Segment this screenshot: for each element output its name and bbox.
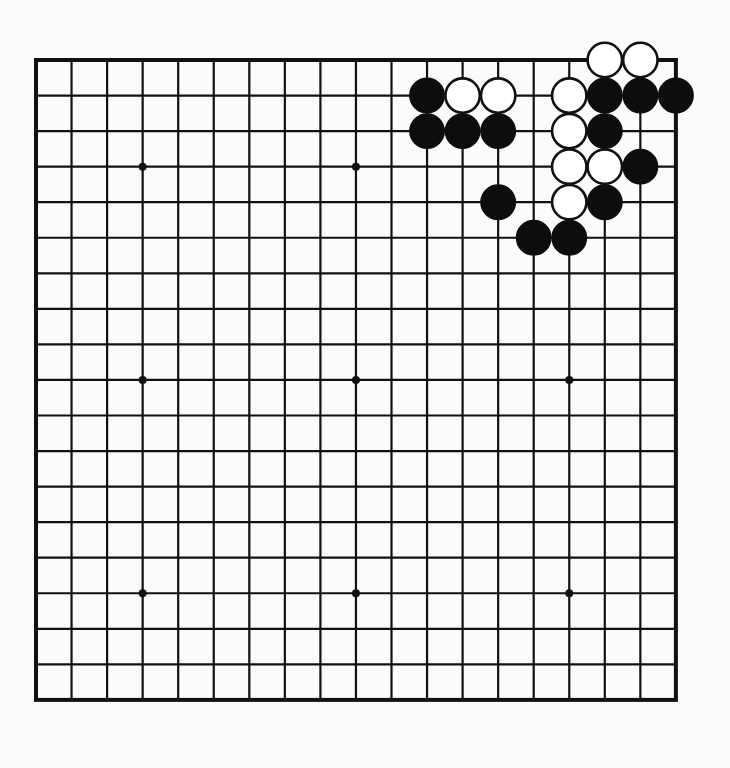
star-point	[139, 589, 147, 597]
white-stone	[445, 78, 479, 112]
black-stone	[588, 114, 622, 148]
black-stone	[481, 185, 515, 219]
black-stone	[623, 78, 657, 112]
white-stone	[552, 149, 586, 183]
black-stone	[517, 221, 551, 255]
stones-layer	[410, 43, 693, 255]
black-stone	[445, 114, 479, 148]
white-stone	[552, 78, 586, 112]
black-stone	[410, 114, 444, 148]
white-stone	[552, 114, 586, 148]
white-stone	[481, 78, 515, 112]
white-stone	[623, 43, 657, 77]
star-point	[139, 163, 147, 171]
star-point	[352, 376, 360, 384]
star-point	[352, 589, 360, 597]
white-stone	[552, 185, 586, 219]
star-point	[565, 589, 573, 597]
black-stone	[588, 78, 622, 112]
white-stone	[588, 149, 622, 183]
star-point	[139, 376, 147, 384]
black-stone	[659, 78, 693, 112]
go-board-diagram	[0, 0, 730, 768]
black-stone	[588, 185, 622, 219]
go-board[interactable]	[0, 0, 730, 768]
black-stone	[410, 78, 444, 112]
white-stone	[588, 43, 622, 77]
black-stone	[481, 114, 515, 148]
star-point	[565, 376, 573, 384]
black-stone	[623, 149, 657, 183]
star-point	[352, 163, 360, 171]
black-stone	[552, 221, 586, 255]
